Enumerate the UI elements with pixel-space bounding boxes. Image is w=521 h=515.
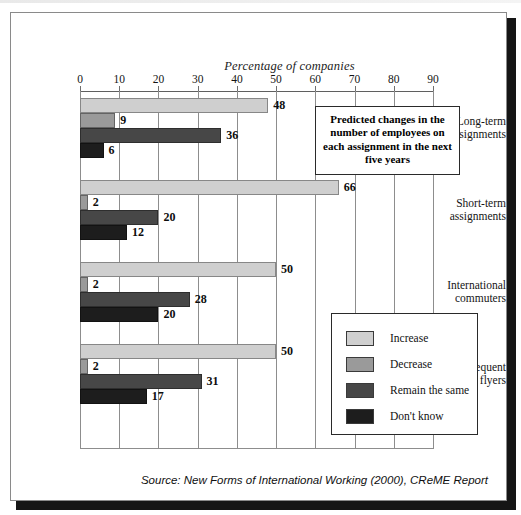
x-tick-label-20: 20: [153, 73, 165, 85]
bar-value-label: 2: [93, 277, 99, 292]
legend-label: Decrease: [390, 358, 432, 370]
legend-swatch: [346, 409, 374, 424]
bar: [80, 344, 276, 359]
bar-value-label: 20: [163, 307, 175, 322]
legend-item[interactable]: Don't know: [332, 403, 477, 429]
page-top-edge: [0, 0, 521, 3]
x-tick-label-90: 90: [427, 73, 439, 85]
bar: [80, 98, 268, 113]
category-label: Internationalcommuters: [420, 279, 506, 305]
bar: [80, 292, 190, 307]
bar-value-label: 2: [93, 195, 99, 210]
legend-item[interactable]: Increase: [332, 325, 477, 351]
x-tick-label-40: 40: [231, 73, 243, 85]
source-note: Source: New Forms of International Worki…: [11, 474, 488, 486]
bar-value-label: 48: [273, 98, 285, 113]
x-tick-label-70: 70: [349, 73, 361, 85]
legend-label: Don't know: [390, 410, 444, 422]
category-label-line: assignments: [420, 210, 506, 223]
x-tick-label-10: 10: [113, 73, 125, 85]
x-tick-label-60: 60: [310, 73, 322, 85]
category-label-line: Short-term: [420, 197, 506, 210]
bar-value-label: 17: [152, 389, 164, 404]
bar: [80, 277, 88, 292]
axis-title-text: Percentage of companies: [224, 59, 355, 73]
x-tick-label-80: 80: [388, 73, 400, 85]
bar: [80, 195, 88, 210]
bar-value-label: 2: [93, 359, 99, 374]
bar: [80, 374, 202, 389]
bar-value-label: 50: [281, 262, 293, 277]
legend-label: Remain the same: [390, 384, 469, 396]
bar: [80, 307, 158, 322]
bar: [80, 128, 221, 143]
bar-value-label: 66: [344, 180, 356, 195]
bar-value-label: 20: [163, 210, 175, 225]
axis-title: Percentage of companies: [11, 59, 508, 74]
x-axis-line: [80, 91, 433, 92]
x-tick-label-50: 50: [270, 73, 282, 85]
category-label-line: commuters: [420, 292, 506, 305]
bar: [80, 262, 276, 277]
category-label: Short-termassignments: [420, 197, 506, 223]
bar-value-label: 50: [281, 344, 293, 359]
annotation-callout: Predicted changes in the number of emplo…: [315, 106, 460, 175]
bar-value-label: 6: [109, 143, 115, 158]
bar-value-label: 31: [207, 374, 219, 389]
bar: [80, 113, 115, 128]
bar-value-label: 12: [132, 225, 144, 240]
legend-swatch: [346, 357, 374, 372]
legend-item[interactable]: Remain the same: [332, 377, 477, 403]
chart-page: Percentage of companies 0102030405060708…: [0, 0, 521, 515]
category-label-line: International: [420, 279, 506, 292]
x-tick-label-0: 0: [77, 73, 83, 85]
bar: [80, 225, 127, 240]
legend-label: Increase: [390, 332, 428, 344]
bar-value-label: 28: [195, 292, 207, 307]
legend-swatch: [346, 383, 374, 398]
bar: [80, 359, 88, 374]
legend-item[interactable]: Decrease: [332, 351, 477, 377]
chart-legend: IncreaseDecreaseRemain the sameDon't kno…: [331, 313, 478, 435]
figure-frame: Percentage of companies 0102030405060708…: [10, 12, 507, 501]
gridline-50: [276, 91, 277, 449]
plot-baseline: [80, 448, 433, 449]
bar: [80, 180, 339, 195]
bar-value-label: 9: [120, 113, 126, 128]
x-tick-label-30: 30: [192, 73, 204, 85]
bar: [80, 143, 104, 158]
bar: [80, 210, 158, 225]
legend-swatch: [346, 331, 374, 346]
bar: [80, 389, 147, 404]
bar-value-label: 36: [226, 128, 238, 143]
